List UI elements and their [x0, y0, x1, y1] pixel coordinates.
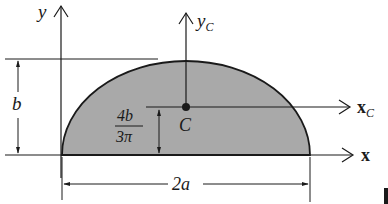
xc-axis-label-main: x: [357, 97, 366, 117]
yc-axis-label: yC: [195, 10, 214, 34]
height-dimension-label: b: [12, 93, 22, 114]
yc-axis-label-sub: C: [205, 20, 214, 34]
yc-axis-label-main: y: [195, 10, 206, 31]
y-axis-label: y: [36, 1, 47, 22]
centroid-dim-numerator: 4b: [117, 107, 133, 124]
centroid-label: C: [179, 115, 192, 135]
xc-axis-label: xC: [357, 97, 375, 120]
centroid-point: [182, 103, 190, 111]
edge-fragment: [384, 188, 388, 204]
x-axis-label: x: [361, 145, 370, 165]
centroid-dim-denominator: 3π: [115, 128, 133, 145]
width-dimension-label: 2a: [172, 174, 190, 194]
xc-axis-label-sub: C: [366, 106, 375, 120]
semi-ellipse-diagram: y yC xC x C b 4b 3π 2a: [0, 0, 388, 204]
